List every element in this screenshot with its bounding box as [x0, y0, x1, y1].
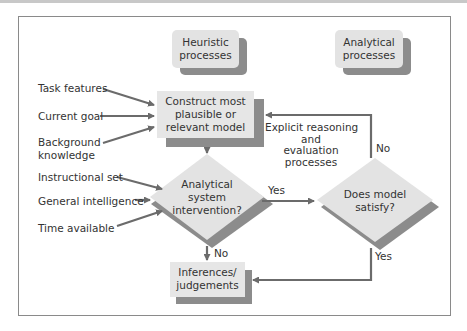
input-background-knowledge: Background knowledge	[38, 136, 101, 162]
input-current-goal: Current goal	[38, 110, 103, 123]
input-instructional-set: Instructional set	[38, 171, 123, 184]
construct-label: Construct most plausible or relevant mod…	[157, 95, 254, 134]
analytical-label: Analytical processes	[335, 36, 403, 62]
input-time-available: Time available	[38, 222, 114, 235]
intervention-label: Analytical system intervention?	[157, 178, 257, 217]
edge-no-satisfy: No	[376, 142, 390, 155]
explicit-reasoning-label: Explicit reasoning and evaluation proces…	[265, 122, 357, 168]
satisfy-label: Does model satisfy?	[330, 188, 420, 214]
heuristic-label: Heuristic processes	[172, 36, 239, 62]
input-task-features: Task features	[38, 82, 107, 95]
input-general-intelligence: General intelligence	[38, 195, 144, 208]
edge-no-intervention: No	[214, 247, 228, 260]
edge-yes-intervention: Yes	[268, 184, 285, 197]
edge-yes-satisfy: Yes	[375, 250, 392, 263]
inferences-label: Inferences/ judgements	[170, 266, 245, 292]
